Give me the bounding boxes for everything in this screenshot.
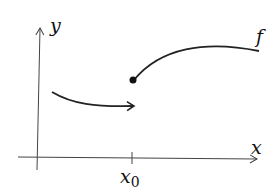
x0-label-base: x <box>120 165 131 187</box>
y-axis <box>37 28 40 170</box>
y-axis-label: y <box>49 14 61 36</box>
x0-label-subscript: 0 <box>131 174 140 190</box>
diagram-canvas: y x f x0 <box>0 0 280 193</box>
left-branch-curve <box>52 92 134 106</box>
right-branch-curve <box>134 46 259 80</box>
x0-label: x0 <box>120 165 140 190</box>
filled-point <box>130 77 137 84</box>
x-axis <box>18 157 257 159</box>
function-label: f <box>254 25 266 47</box>
x-axis-label: x <box>251 136 262 158</box>
